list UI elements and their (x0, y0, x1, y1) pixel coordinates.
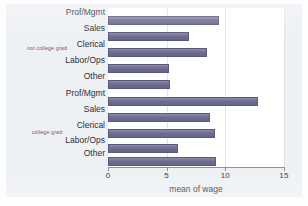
bar-g1-labor (108, 64, 169, 73)
category-labels: Prof/MgmtSalesClericalLabor/OpsOtherProf… (8, 0, 105, 206)
gridline-15 (284, 8, 285, 167)
bar-g1-sales (108, 32, 189, 41)
x-tick-label-5: 5 (155, 171, 179, 180)
x-tick-label-10: 10 (213, 171, 237, 180)
bar-g1-cler (108, 48, 207, 57)
bar-g2-cler (108, 129, 215, 138)
category-label-g2-prof: Prof/Mgmt (9, 88, 105, 98)
bar-g2-other (108, 157, 216, 166)
page-margin-left (0, 0, 6, 206)
group-label-2: college grad (8, 129, 86, 135)
x-axis-line (108, 167, 284, 168)
bar-g2-sales (108, 113, 210, 122)
page-margin-right (302, 0, 308, 206)
category-label-g2-labor: Labor/Ops (9, 135, 105, 145)
category-label-g1-labor: Labor/Ops (9, 55, 105, 65)
category-label-g2-other: Other (9, 148, 105, 158)
bar-g1-other (108, 80, 170, 89)
category-label-g1-other: Other (9, 71, 105, 81)
category-label-g1-prof: Prof/Mgmt (9, 7, 105, 17)
bar-chart-figure: 051015 mean of wage Prof/MgmtSalesCleric… (0, 0, 308, 206)
category-label-g1-sales: Sales (9, 23, 105, 33)
category-label-g2-sales: Sales (9, 104, 105, 114)
bar-g2-labor (108, 144, 178, 153)
x-tick-label-15: 15 (272, 171, 296, 180)
bar-g2-prof (108, 97, 258, 106)
x-axis-title: mean of wage (108, 184, 284, 194)
plot-area (108, 8, 284, 167)
bar-g1-prof (108, 16, 219, 25)
gridline-10 (225, 8, 226, 167)
group-label-1: not college grad (8, 45, 86, 51)
